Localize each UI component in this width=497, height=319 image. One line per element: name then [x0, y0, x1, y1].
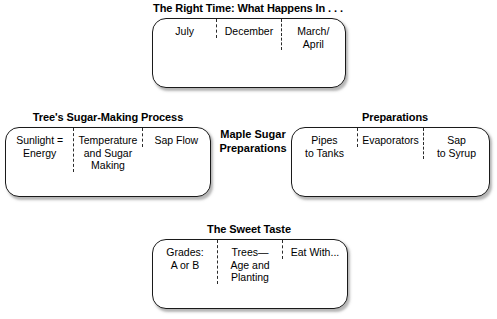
cell-label: Eat With...	[283, 246, 347, 259]
cell-preparations-3[interactable]: Sap to Syrup	[423, 128, 489, 159]
group-title-right-time: The Right Time: What Happens In . . .	[148, 2, 348, 15]
cell-label: Trees— Age and Planting	[218, 246, 282, 284]
cell-sweet-taste-2[interactable]: Trees— Age and Planting	[217, 240, 282, 284]
cell-preparations-1[interactable]: Pipes to Tanks	[292, 128, 357, 159]
cell-label: Evaporators	[358, 134, 423, 147]
group-box-right-time: July December March/ April	[152, 18, 346, 88]
cell-label: Sunlight = Energy	[6, 134, 73, 159]
cell-label: Sap to Syrup	[424, 134, 489, 159]
group-title-preparations: Preparations	[340, 111, 450, 124]
cell-sweet-taste-3[interactable]: Eat With...	[282, 240, 347, 259]
cell-preparations-2[interactable]: Evaporators	[357, 128, 423, 147]
cell-label: Grades: A or B	[153, 246, 217, 271]
cell-label: July	[153, 25, 216, 38]
group-title-sweet-taste: The Sweet Taste	[150, 223, 348, 236]
hub-label-maple-sugar-preparations: Maple Sugar Preparations	[217, 128, 289, 155]
diagram-canvas: The Right Time: What Happens In . . . Ju…	[0, 0, 497, 319]
cell-label: March/ April	[282, 25, 345, 50]
cell-right-time-3[interactable]: March/ April	[281, 19, 345, 50]
cell-right-time-1[interactable]: July	[153, 19, 216, 38]
cell-label: December	[217, 25, 280, 38]
cell-sugar-making-2[interactable]: Temperature and Sugar Making	[73, 128, 141, 172]
cell-right-time-2[interactable]: December	[216, 19, 280, 38]
cell-sugar-making-1[interactable]: Sunlight = Energy	[6, 128, 73, 159]
cell-label: Temperature and Sugar Making	[74, 134, 141, 172]
group-box-sugar-making-process: Sunlight = Energy Temperature and Sugar …	[5, 127, 211, 197]
group-box-preparations: Pipes to Tanks Evaporators Sap to Syrup	[291, 127, 490, 197]
group-box-sweet-taste: Grades: A or B Trees— Age and Planting E…	[152, 239, 348, 309]
cell-sweet-taste-1[interactable]: Grades: A or B	[153, 240, 217, 271]
group-title-sugar-making-process: Tree's Sugar-Making Process	[8, 111, 208, 124]
cell-label: Pipes to Tanks	[292, 134, 357, 159]
cell-label: Sap Flow	[143, 134, 210, 147]
cell-sugar-making-3[interactable]: Sap Flow	[142, 128, 210, 147]
